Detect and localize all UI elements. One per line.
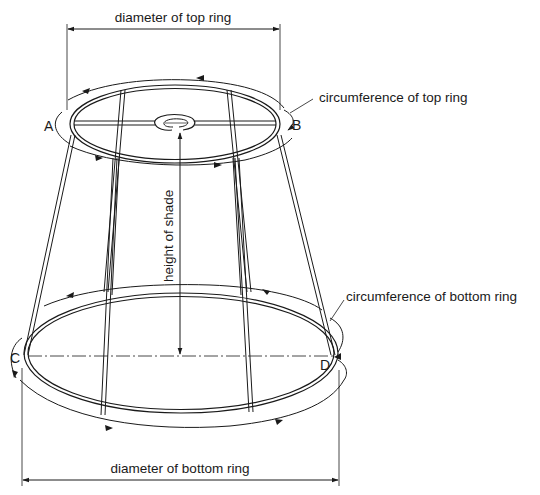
bottom-ring	[24, 293, 338, 413]
top-circumference-label: circumference of top ring	[319, 90, 468, 105]
height-label: height of shade	[161, 190, 176, 282]
height-dimension: height of shade	[161, 133, 180, 354]
point-a-label: A	[44, 118, 54, 134]
point-d-label: D	[320, 357, 330, 373]
top-diameter-label: diameter of top ring	[115, 10, 231, 25]
point-c-label: C	[10, 350, 20, 366]
lampshade-frame-diagram: diameter of top ring	[0, 0, 540, 495]
point-b-label: B	[292, 117, 301, 133]
bottom-circumference-label: circumference of bottom ring	[346, 289, 517, 304]
bottom-diameter-label: diameter of bottom ring	[111, 461, 250, 476]
diagram-canvas: diameter of top ring	[0, 0, 540, 495]
top-ring	[70, 85, 280, 163]
top-diameter-dimension: diameter of top ring	[67, 10, 280, 110]
